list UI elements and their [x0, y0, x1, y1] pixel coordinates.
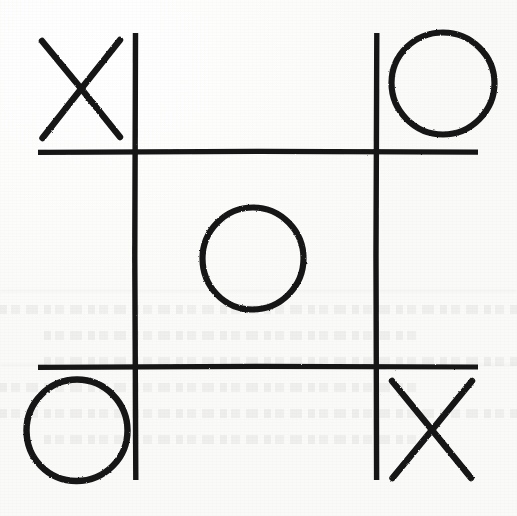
tic-tac-toe-board [0, 0, 517, 516]
cell-middle-right[interactable] [379, 155, 478, 367]
cell-top-right[interactable] [379, 33, 478, 152]
cell-bottom-center[interactable] [138, 370, 376, 480]
grid-line-vertical-right [376, 33, 377, 480]
cell-top-left[interactable] [38, 33, 135, 152]
cell-middle-left[interactable] [38, 155, 135, 367]
cell-bottom-left[interactable] [38, 370, 135, 480]
cell-middle-center[interactable] [138, 155, 376, 367]
cell-top-center[interactable] [138, 33, 376, 152]
cell-bottom-right[interactable] [379, 370, 478, 480]
